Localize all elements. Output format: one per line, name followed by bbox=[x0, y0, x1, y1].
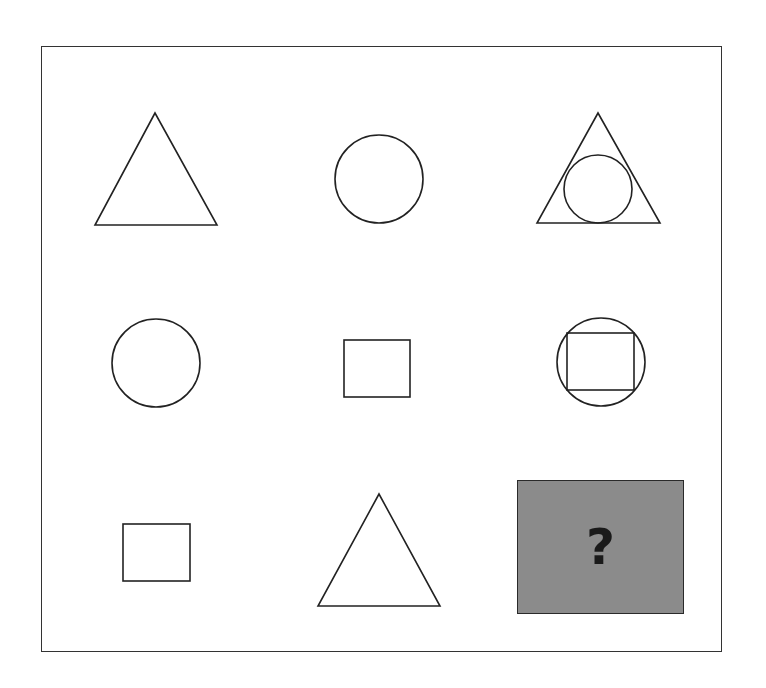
cell-r3c1-square bbox=[123, 524, 190, 581]
answer-box: ? bbox=[517, 480, 684, 614]
cell-r3c2-triangle bbox=[318, 494, 440, 606]
cell-r1c1-triangle bbox=[95, 113, 217, 225]
cell-r2c3-square-in-circle bbox=[557, 318, 645, 406]
cell-r1c3-circle-in-triangle bbox=[537, 113, 660, 223]
question-mark: ? bbox=[586, 518, 615, 576]
cell-r2c1-circle bbox=[112, 319, 200, 407]
cell-r1c2-circle bbox=[335, 135, 423, 223]
cell-r2c2-square bbox=[344, 340, 410, 397]
